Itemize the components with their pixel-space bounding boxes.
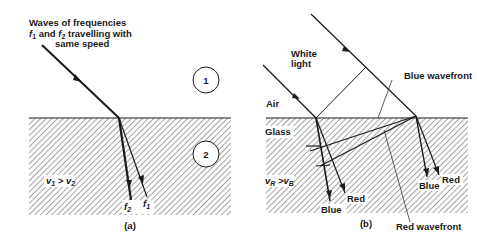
caption-b: (b) [360, 218, 372, 229]
incident-right-arrow-icon [342, 46, 350, 52]
medium-2-label: 2 [203, 149, 208, 160]
panel-a: Waves of frequencies f1 and f2 travellin… [29, 17, 231, 231]
incident-left-arrow-icon [292, 93, 300, 99]
left-blue-label: Blue [321, 204, 342, 215]
caption-a: (a) [124, 220, 136, 231]
white-light-label-line2: light [291, 58, 312, 69]
incident-wavefront [316, 67, 366, 118]
glass-label: Glass [265, 126, 291, 137]
incident-ray-right [311, 14, 416, 116]
incident-label-line1: Waves of frequencies [29, 17, 126, 28]
right-red-label: Red [442, 174, 460, 185]
medium-1-label: 1 [203, 75, 209, 86]
red-wavefront-label: Red wavefront [396, 221, 462, 232]
blue-wavefront-label: Blue wavefront [404, 70, 473, 81]
ray-labels-a: f2 f1 [122, 198, 154, 214]
svg-text:v1 > v2: v1 > v2 [46, 175, 75, 187]
refraction-diagram: Waves of frequencies f1 and f2 travellin… [0, 0, 477, 244]
incident-ray-left [263, 65, 316, 118]
panel-b: White light Air Glass Blue wavefront Red… [263, 14, 473, 232]
speed-relation-b: vR >vB [264, 175, 294, 187]
right-blue-label: Blue [419, 180, 440, 191]
incident-label-line3: same speed [55, 38, 110, 49]
speed-relation-a: v1 > v2 [44, 175, 75, 187]
left-red-label: Red [347, 193, 365, 204]
air-label: Air [266, 98, 280, 109]
